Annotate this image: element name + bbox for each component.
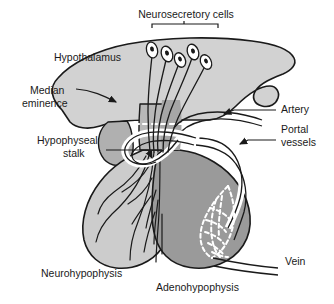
label-median-eminence-line1: Median: [30, 84, 65, 96]
label-neurohypophysis: Neurohypophysis: [41, 267, 122, 279]
label-adenohypophysis: Adenohypophysis: [156, 281, 239, 293]
label-artery: Artery: [281, 103, 310, 115]
anatomy-figure: Neurosecretory cells Hypothalamus Median…: [0, 0, 334, 304]
label-portal-vessels-line1: Portal: [281, 123, 308, 135]
vein-vessel: [213, 258, 278, 275]
label-median-eminence-line2: eminence: [22, 97, 68, 109]
label-neurosecretory-cells: Neurosecretory cells: [138, 8, 234, 20]
label-hypophyseal-stalk-line1: Hypophyseal: [37, 134, 98, 146]
portal-vessels-leader: [240, 140, 276, 144]
label-portal-vessels-line2: vessels: [281, 136, 316, 148]
hypothalamic-pituitary-diagram: Neurosecretory cells Hypothalamus Median…: [0, 0, 334, 304]
neurosecretory-cells-bracket: [152, 21, 218, 28]
label-vein: Vein: [285, 255, 306, 267]
label-hypothalamus: Hypothalamus: [54, 51, 121, 63]
label-hypophyseal-stalk-line2: stalk: [63, 147, 85, 159]
